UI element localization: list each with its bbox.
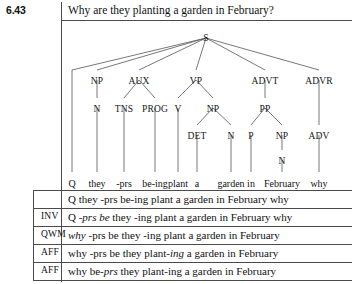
table-rule bbox=[33, 262, 352, 263]
table-row: Q -prs be they -ing plant a garden in Fe… bbox=[68, 211, 292, 224]
exercise-number: 6.43 bbox=[6, 4, 26, 16]
tree-terminal: they bbox=[88, 178, 105, 189]
emphasized-morpheme: -prs be bbox=[79, 211, 110, 223]
table-row: why -prs be they -ing plant a garden in … bbox=[68, 229, 280, 242]
table-rule bbox=[33, 244, 352, 245]
tree-edge bbox=[97, 38, 206, 70]
label-column-divider bbox=[61, 2, 62, 282]
tree-terminal: a bbox=[195, 178, 199, 189]
row-text-segment: -prs be they -ing plant a garden in Febr… bbox=[86, 229, 280, 241]
tree-node-s: S bbox=[203, 33, 208, 43]
exercise-figure: 6.43 Why are they planting a garden in F… bbox=[0, 0, 352, 284]
tree-node-vp: VP bbox=[190, 76, 203, 86]
tree-edge bbox=[139, 38, 206, 70]
tree-terminal: garden bbox=[217, 178, 244, 189]
tree-node-n: N bbox=[93, 104, 100, 114]
tree-node-np: NP bbox=[91, 76, 104, 86]
table-row-label: AFF bbox=[41, 265, 59, 276]
table-row: why be-prs they plant-ing a garden in Fe… bbox=[68, 265, 276, 278]
tree-terminal: Q bbox=[68, 178, 75, 189]
tree-node-np: NP bbox=[276, 131, 289, 141]
tree-edge bbox=[72, 38, 206, 70]
table-rule bbox=[33, 226, 352, 227]
tree-node-advr: ADVR bbox=[305, 76, 333, 86]
tree-node-pp: PP bbox=[260, 104, 271, 114]
row-text-segment: why be- bbox=[68, 265, 104, 277]
tree-terminal: why bbox=[310, 178, 327, 189]
emphasized-morpheme: prs bbox=[104, 265, 118, 277]
emphasized-morpheme: why bbox=[68, 229, 86, 241]
emphasized-morpheme: ing bbox=[170, 247, 184, 259]
table-row-label: QWM bbox=[41, 229, 66, 240]
tree-node-tns: TNS bbox=[115, 104, 134, 114]
table-rule bbox=[33, 208, 352, 209]
table-rule bbox=[33, 280, 352, 281]
tree-terminal: be-ing bbox=[142, 178, 168, 189]
tree-terminal: February bbox=[264, 178, 300, 189]
tree-node-np: NP bbox=[207, 104, 220, 114]
table-row: why -prs be they plant-ing a garden in F… bbox=[68, 247, 278, 260]
row-text-segment: Q they -prs be-ing plant a garden in Feb… bbox=[68, 193, 289, 205]
row-text-segment: they -ing plant a garden in February why bbox=[110, 211, 293, 223]
tree-node-v: V bbox=[174, 104, 181, 114]
tree-node-aux: AUX bbox=[128, 76, 149, 86]
tree-terminal: in bbox=[247, 178, 255, 189]
row-text-segment: a garden in February bbox=[184, 247, 278, 259]
tree-terminal: -prs bbox=[116, 178, 132, 189]
tree-edge bbox=[206, 38, 265, 70]
row-text-segment: Q bbox=[68, 211, 79, 223]
table-rule bbox=[61, 20, 352, 21]
tree-node-n: N bbox=[278, 156, 285, 166]
table-row-label: INV bbox=[41, 211, 59, 222]
row-text-segment: why -prs be they plant- bbox=[68, 247, 170, 259]
tree-node-det: DET bbox=[187, 131, 206, 141]
prompt-sentence: Why are they planting a garden in Februa… bbox=[68, 3, 274, 17]
table-rule bbox=[33, 190, 352, 191]
tree-node-prog: PROG bbox=[142, 104, 168, 114]
tree-edge bbox=[206, 38, 319, 70]
tree-terminal: plant bbox=[168, 178, 188, 189]
tree-node-p: P bbox=[248, 131, 253, 141]
tree-node-advt: ADVT bbox=[251, 76, 278, 86]
tree-node-adv: ADV bbox=[308, 131, 329, 141]
table-left-border bbox=[33, 190, 34, 280]
tree-node-n: N bbox=[227, 131, 234, 141]
table-row: Q they -prs be-ing plant a garden in Feb… bbox=[68, 193, 289, 206]
table-row-label: AFF bbox=[41, 247, 59, 258]
row-text-segment: they plant-ing a garden in February bbox=[118, 265, 276, 277]
